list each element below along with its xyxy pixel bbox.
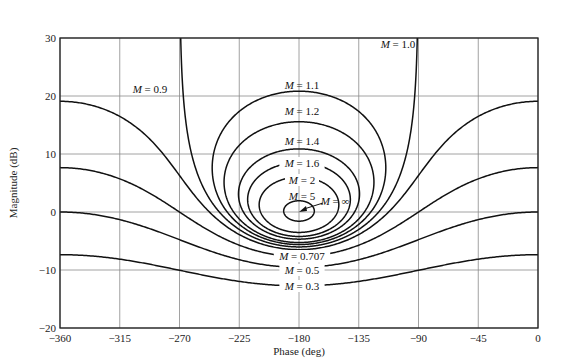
m-contour-label: M = 0.3 [284,280,320,292]
x-tick-label: −45 [470,332,488,344]
m-contour-label: M = ∞ [320,195,350,207]
x-axis-label: Phase (deg) [273,345,325,358]
x-tick-label: −270 [168,332,191,344]
arrowhead-icon [299,206,307,212]
m-contour-label: M = 1.2 [284,105,320,117]
y-tick-label: 20 [45,90,57,102]
m-contour-label: M = 1.6 [284,157,320,169]
y-tick-label: −20 [39,322,57,334]
y-axis-label: Magnitude (dB) [7,147,20,218]
y-tick-labels: −20−100102030 [39,32,57,334]
m-contour-label: M = 2 [288,174,315,186]
x-tick-label: −225 [228,332,251,344]
m-contour-label: M = 0.9 [132,83,168,95]
m-contour-label: M = 1.1 [284,79,320,91]
y-tick-label: 0 [51,206,57,218]
x-tick-labels: −360−315−270−225−180−135−90−450 [49,332,542,344]
y-tick-label: −10 [39,264,57,276]
x-tick-label: 0 [535,332,541,344]
x-tick-label: −180 [288,332,311,344]
x-tick-label: −135 [347,332,370,344]
x-tick-label: −90 [410,332,428,344]
x-tick-label: −315 [108,332,131,344]
m-contour-label: M = 1.0 [380,38,416,50]
y-tick-label: 10 [45,148,57,160]
m-contour-label: M = 1.4 [284,135,320,147]
nichols-chart: M = 0.3M = 0.5M = 0.707M = 0.9M = 1.0M =… [0,0,561,361]
y-tick-label: 30 [45,32,57,44]
m-contour-label: M = 0.707 [278,250,325,262]
m-contour-label: M = 0.5 [284,264,320,276]
m-contour-label: M = 5 [288,190,316,202]
